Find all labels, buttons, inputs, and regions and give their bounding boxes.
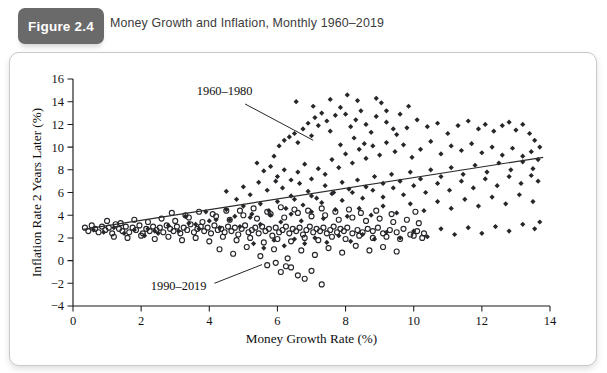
data-point-1990-2019 <box>353 243 358 248</box>
data-point-1990-2019 <box>236 232 241 237</box>
data-point-1960-1980 <box>324 118 329 123</box>
data-point-1960-1980 <box>132 227 137 232</box>
data-point-1960-1980 <box>166 223 171 228</box>
data-point-1960-1980 <box>483 122 488 127</box>
data-point-1960-1980 <box>333 113 338 118</box>
data-point-1960-1980 <box>428 139 433 144</box>
data-point-1960-1980 <box>471 185 476 190</box>
data-point-1960-1980 <box>520 122 525 127</box>
data-point-1990-2019 <box>205 225 210 230</box>
data-point-1960-1980 <box>518 181 523 186</box>
data-point-1960-1980 <box>314 196 319 201</box>
data-point-1990-2019 <box>207 239 212 244</box>
data-point-1960-1980 <box>363 156 368 161</box>
data-point-1960-1980 <box>256 180 261 185</box>
x-tick-label: 4 <box>206 314 213 328</box>
data-point-1990-2019 <box>374 208 379 213</box>
data-point-1960-1980 <box>421 208 426 213</box>
data-point-1960-1980 <box>338 142 343 147</box>
data-point-1960-1980 <box>401 142 406 147</box>
data-point-1960-1980 <box>391 126 396 131</box>
data-point-1960-1980 <box>278 219 283 224</box>
data-point-1960-1980 <box>404 125 409 130</box>
data-point-1960-1980 <box>380 204 385 209</box>
chart-card: −4−2024681012141602468101214Money Growth… <box>9 52 597 366</box>
data-point-1990-2019 <box>208 231 213 236</box>
data-point-1960-1980 <box>392 149 397 154</box>
data-point-1990-2019 <box>384 234 389 239</box>
data-point-1960-1980 <box>517 192 522 197</box>
data-point-1960-1980 <box>435 181 440 186</box>
data-point-1990-2019 <box>273 225 278 230</box>
data-point-1960-1980 <box>287 134 292 139</box>
data-point-1960-1980 <box>476 204 481 209</box>
data-point-1990-2019 <box>283 264 288 269</box>
data-point-1960-1980 <box>520 154 525 159</box>
data-point-1990-2019 <box>287 231 292 236</box>
data-point-1960-1980 <box>319 200 324 205</box>
annotation-leader-2 <box>214 265 262 284</box>
data-point-1960-1980 <box>311 104 316 109</box>
data-point-1960-1980 <box>415 117 420 122</box>
data-point-1960-1980 <box>508 167 513 172</box>
data-point-1960-1980 <box>462 197 467 202</box>
data-point-1990-2019 <box>125 235 130 240</box>
x-axis-title: Money Growth Rate (%) <box>246 331 377 346</box>
data-point-1990-2019 <box>358 210 363 215</box>
data-point-1960-1980 <box>449 165 454 170</box>
data-point-1960-1980 <box>268 164 273 169</box>
data-point-1990-2019 <box>299 248 304 253</box>
y-tick-label: 2 <box>58 231 64 245</box>
data-point-1960-1980 <box>343 112 348 117</box>
data-point-1960-1980 <box>248 192 253 197</box>
x-tick-label: 10 <box>407 314 420 328</box>
data-point-1990-2019 <box>193 235 198 240</box>
data-point-1990-2019 <box>404 217 409 222</box>
data-point-1960-1980 <box>500 152 505 157</box>
data-point-1960-1980 <box>355 177 360 182</box>
data-point-1960-1980 <box>261 168 266 173</box>
data-point-1960-1980 <box>510 146 515 151</box>
data-point-1960-1980 <box>372 174 377 179</box>
data-point-1990-2019 <box>420 235 425 240</box>
data-point-1960-1980 <box>384 140 389 145</box>
data-point-1960-1980 <box>495 183 500 188</box>
data-point-1960-1980 <box>507 174 512 179</box>
data-point-1960-1980 <box>447 188 452 193</box>
data-point-1960-1980 <box>532 138 537 143</box>
data-point-1990-2019 <box>416 221 421 226</box>
data-point-1960-1980 <box>299 218 304 223</box>
data-point-1960-1980 <box>350 190 355 195</box>
data-point-1990-2019 <box>329 234 334 239</box>
data-point-1960-1980 <box>384 230 389 235</box>
data-point-1990-2019 <box>174 224 179 229</box>
x-tick-label: 8 <box>342 314 348 328</box>
data-point-1960-1980 <box>360 196 365 201</box>
data-point-1960-1980 <box>406 104 411 109</box>
data-point-1990-2019 <box>166 234 171 239</box>
y-tick-label: 4 <box>58 209 65 223</box>
data-point-1960-1980 <box>282 138 287 143</box>
data-point-1960-1980 <box>288 177 293 182</box>
data-point-1960-1980 <box>489 145 494 150</box>
data-point-1960-1980 <box>309 176 314 181</box>
data-point-1960-1980 <box>369 213 374 218</box>
annotation-label-2: 1990–2019 <box>151 279 207 293</box>
data-point-1990-2019 <box>251 206 256 211</box>
data-point-1990-2019 <box>256 231 261 236</box>
data-point-1960-1980 <box>428 167 433 172</box>
data-point-1960-1980 <box>507 228 512 233</box>
data-point-1960-1980 <box>370 143 375 148</box>
data-point-1990-2019 <box>350 215 355 220</box>
data-point-1990-2019 <box>278 205 283 210</box>
data-point-1960-1980 <box>370 188 375 193</box>
data-point-1960-1980 <box>353 117 358 122</box>
data-point-1960-1980 <box>394 132 399 137</box>
data-point-1960-1980 <box>425 124 430 129</box>
data-point-1990-2019 <box>336 217 341 222</box>
data-point-1990-2019 <box>312 252 317 257</box>
data-point-1960-1980 <box>377 152 382 157</box>
data-point-1990-2019 <box>355 227 360 232</box>
data-point-1960-1980 <box>527 131 532 136</box>
data-point-1960-1980 <box>237 224 242 229</box>
